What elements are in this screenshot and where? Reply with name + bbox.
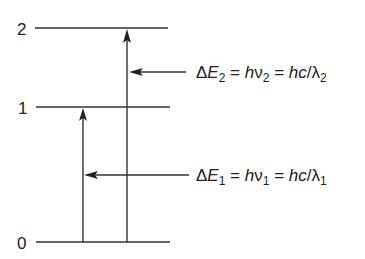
- equals: =: [269, 166, 288, 185]
- delta-symbol: Δ: [196, 63, 207, 82]
- equals: =: [269, 63, 288, 82]
- equals: =: [225, 63, 244, 82]
- equals: =: [225, 166, 244, 185]
- nu-symbol: ν: [254, 166, 263, 185]
- nu-symbol: ν: [254, 63, 263, 82]
- hc-symbol: hc: [289, 63, 307, 82]
- delta-symbol: Δ: [196, 166, 207, 185]
- equation-delta-e2: ΔE2 = hν2 = hc/λ2: [196, 63, 327, 85]
- subscript: 2: [320, 71, 327, 85]
- equation-delta-e1: ΔE1 = hν1 = hc/λ1: [196, 166, 327, 188]
- subscript: 1: [320, 174, 327, 188]
- energy-symbol: E: [207, 63, 219, 82]
- level-label-2: 2: [17, 20, 26, 39]
- pointer-arrow-delta-e2: [129, 68, 186, 76]
- energy-symbol: E: [207, 166, 219, 185]
- energy-level-diagram: 2 1 0 ΔE2 = hν2 = hc/λ2 ΔE1 = hν1 = hc/λ…: [0, 0, 365, 259]
- planck-h: h: [245, 166, 254, 185]
- level-label-1: 1: [18, 99, 27, 118]
- planck-h: h: [245, 63, 254, 82]
- transition-arrow-0-to-2: [123, 29, 131, 242]
- pointer-arrow-delta-e1: [84, 171, 189, 179]
- level-label-0: 0: [17, 234, 26, 253]
- hc-symbol: hc: [289, 166, 307, 185]
